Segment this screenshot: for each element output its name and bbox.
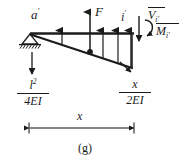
- figure-caption: (g): [78, 142, 92, 154]
- label-span-dimension: x: [77, 110, 82, 122]
- label-right-ordinate: x 2EI: [119, 78, 151, 106]
- right-ordinate-denominator: 2EI: [119, 94, 151, 107]
- left-ordinate-denominator: 4EI: [17, 95, 49, 108]
- right-ordinate-numerator: x: [119, 78, 151, 91]
- triangular-load-outline: [31, 35, 133, 69]
- label-left-ordinate: l2 4EI: [17, 78, 49, 107]
- label-moment-M: Mi′: [156, 23, 179, 40]
- label-point-load-F: F: [95, 5, 103, 18]
- label-moment-symbol: M: [156, 24, 166, 38]
- label-node-i-prime-mark: ′: [124, 9, 126, 18]
- left-ordinate-numerator: l2: [17, 78, 49, 92]
- figure-container: a′ F i′ Vi′ Mi′ l2 4EI x 2EI x (g): [0, 0, 185, 162]
- label-node-i-prime: i′: [121, 10, 126, 23]
- label-moment-subscript: i′: [166, 31, 170, 40]
- span-dimension-line: [29, 123, 134, 134]
- left-ordinate-num-exponent: 2: [33, 77, 37, 86]
- label-shear-V: Vi′: [148, 7, 165, 24]
- label-node-a-prime: a′: [31, 8, 39, 21]
- label-node-a-prime-mark: ′: [38, 7, 40, 16]
